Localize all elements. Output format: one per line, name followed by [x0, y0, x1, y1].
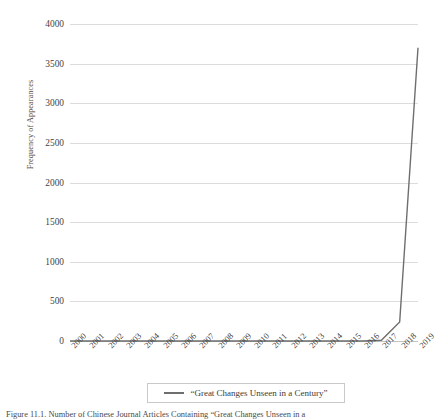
figure-caption: Figure 11.1. Number of Chinese Journal A…	[6, 409, 430, 420]
y-axis-title: Frequency of Appearances	[26, 45, 35, 205]
y-tick-label: 1500	[45, 217, 64, 227]
y-tick-label: 3500	[45, 59, 64, 69]
legend-item-label: “Great Changes Unseen in a Century”	[190, 388, 327, 398]
series-line-great-changes	[70, 48, 418, 341]
x-axis-tick-labels: 2000200120022003200420052006200720082009…	[70, 343, 418, 383]
y-tick-label: 3000	[45, 98, 64, 108]
plot-area: 05001000150020002500300035004000	[70, 24, 418, 341]
y-tick-label: 0	[59, 336, 64, 346]
legend-line-swatch	[164, 392, 184, 394]
figure-chart: Frequency of Appearances 050010001500200…	[0, 0, 436, 420]
y-tick-label: 2500	[45, 138, 64, 148]
chart-legend: “Great Changes Unseen in a Century”	[147, 383, 345, 403]
y-tick-label: 500	[50, 296, 64, 306]
y-tick-label: 4000	[45, 19, 64, 29]
series-line-group	[70, 24, 418, 341]
x-tick-label: 2019	[417, 331, 436, 350]
y-tick-label: 2000	[45, 178, 64, 188]
y-tick-label: 1000	[45, 257, 64, 267]
